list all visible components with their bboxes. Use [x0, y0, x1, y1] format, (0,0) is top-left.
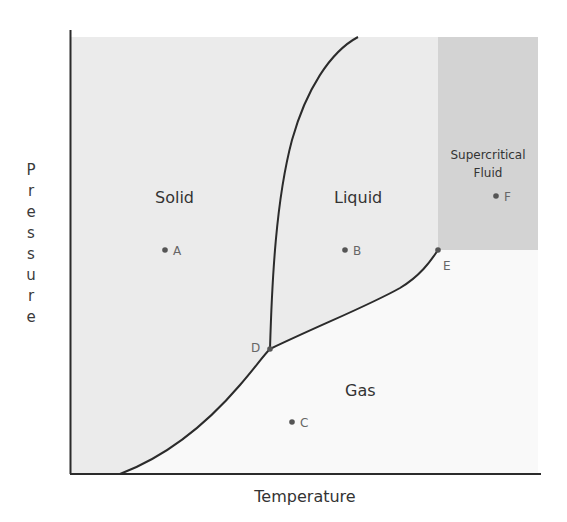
solid-label: Solid	[155, 188, 194, 207]
y-axis-title: Pressure	[22, 160, 40, 328]
point-b-label: B	[353, 244, 361, 258]
y-axis-title-letter: s	[27, 244, 35, 265]
liquid-label: Liquid	[334, 188, 382, 207]
point-c-label: C	[300, 416, 308, 430]
phase-diagram: Solid Liquid Gas Supercritical Fluid A B…	[0, 0, 567, 522]
y-axis-title-letter: s	[27, 223, 35, 244]
point-a-label: A	[173, 244, 182, 258]
point-f-label: F	[504, 190, 511, 204]
y-axis-title-letter: P	[26, 160, 35, 181]
y-axis-title-letter: r	[28, 181, 34, 202]
y-axis-title-letter: e	[26, 307, 35, 328]
y-axis-title-letter: r	[28, 286, 34, 307]
x-axis-title: Temperature	[253, 487, 355, 506]
supercritical-label-line2: Fluid	[474, 166, 503, 180]
y-axis-title-letter: e	[26, 202, 35, 223]
supercritical-region	[438, 37, 538, 250]
gas-label: Gas	[345, 381, 376, 400]
point-e-label: E	[443, 259, 451, 273]
y-axis-title-letter: u	[26, 265, 36, 286]
supercritical-label-line1: Supercritical	[450, 148, 525, 162]
point-d-label: D	[251, 341, 260, 355]
